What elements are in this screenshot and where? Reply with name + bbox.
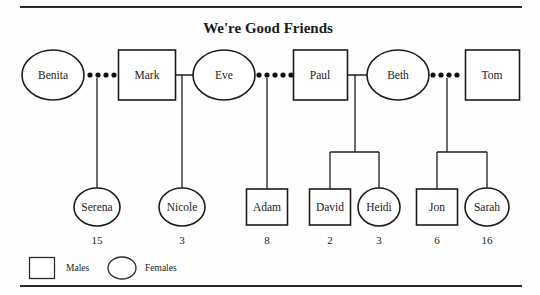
node-label-tom: Tom bbox=[482, 69, 503, 81]
age-label-serena: 15 bbox=[92, 234, 104, 246]
node-mark[interactable]: Mark bbox=[119, 50, 176, 100]
age-label-nicole: 3 bbox=[179, 234, 185, 246]
age-label-heidi: 3 bbox=[376, 234, 382, 246]
node-jon[interactable]: Jon bbox=[417, 189, 458, 225]
age-label-jon: 6 bbox=[434, 234, 440, 246]
node-label-heidi: Heidi bbox=[366, 201, 392, 213]
node-paul[interactable]: Paul bbox=[294, 50, 348, 100]
legend-label-females: Females bbox=[145, 263, 177, 273]
node-label-adam: Adam bbox=[253, 201, 281, 213]
union-eve-paul bbox=[256, 72, 293, 189]
male-square-icon bbox=[30, 258, 55, 279]
node-heidi[interactable]: Heidi bbox=[358, 188, 400, 226]
page-title: We're Good Friends bbox=[203, 20, 333, 36]
node-label-sarah: Sarah bbox=[474, 201, 500, 213]
union-benita-mark bbox=[87, 72, 116, 188]
node-label-mark: Mark bbox=[135, 69, 160, 81]
node-label-david: David bbox=[316, 201, 344, 213]
node-label-paul: Paul bbox=[310, 69, 330, 81]
union-mark-eve bbox=[176, 75, 193, 188]
node-beth[interactable]: Beth bbox=[367, 50, 429, 100]
legend-item-males: Males bbox=[30, 258, 90, 279]
age-label-david: 2 bbox=[327, 234, 333, 246]
node-sarah[interactable]: Sarah bbox=[465, 188, 509, 226]
node-label-jon: Jon bbox=[429, 201, 445, 213]
node-tom[interactable]: Tom bbox=[466, 50, 520, 100]
node-label-benita: Benita bbox=[38, 69, 68, 81]
node-serena[interactable]: Serena bbox=[74, 188, 120, 226]
node-nicole[interactable]: Nicole bbox=[159, 188, 205, 226]
node-label-beth: Beth bbox=[387, 69, 409, 81]
age-label-adam: 8 bbox=[264, 234, 270, 246]
female-circle-icon bbox=[108, 257, 136, 279]
genogram-canvas: We're Good Friends bbox=[0, 0, 540, 295]
genogram-figure: We're Good Friends bbox=[0, 0, 540, 295]
legend-label-males: Males bbox=[66, 263, 90, 273]
node-benita[interactable]: Benita bbox=[22, 50, 84, 100]
legend-item-females: Females bbox=[108, 257, 177, 279]
node-label-nicole: Nicole bbox=[167, 201, 198, 213]
node-eve[interactable]: Eve bbox=[193, 50, 255, 100]
legend: Males Females bbox=[30, 257, 177, 279]
node-adam[interactable]: Adam bbox=[247, 189, 288, 225]
node-label-eve: Eve bbox=[215, 69, 233, 81]
age-label-sarah: 16 bbox=[482, 234, 494, 246]
node-label-serena: Serena bbox=[81, 201, 112, 213]
node-david[interactable]: David bbox=[310, 189, 351, 225]
